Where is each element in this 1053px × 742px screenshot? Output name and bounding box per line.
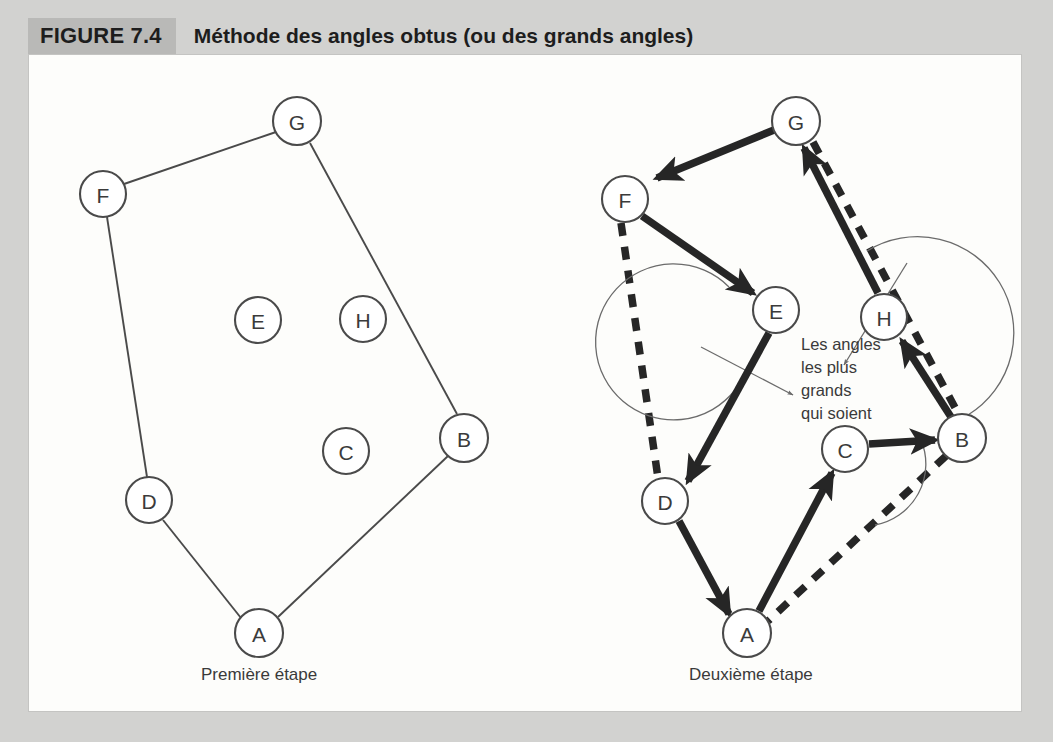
right-thick-arrows [642,130,951,614]
panel-deuxieme-etape: G F E H C [596,97,1014,657]
arrow-g-f [657,130,774,178]
arrow-f-e [642,216,753,293]
node-h-right: H [861,294,907,340]
edge-f-g [124,132,276,184]
annotation-line-4: qui soient [801,404,872,422]
node-c-left: C [323,428,369,474]
node-e-right: E [753,287,799,333]
arrow-h-g [804,148,878,293]
node-label-b: B [955,428,969,451]
node-label-d: D [141,490,156,513]
node-c-right: C [822,426,868,472]
figure-page: FIGURE 7.4 Méthode des angles obtus (ou … [0,0,1053,742]
node-label-c: C [338,441,353,464]
figure-title: Méthode des angles obtus (ou des grands … [176,18,693,54]
node-label-b: B [457,428,471,451]
node-label-c: C [837,439,852,462]
arrow-c-b [869,440,935,444]
node-a-right: A [723,609,771,657]
arrow-a-c [759,473,832,611]
figure-number-tag: FIGURE 7.4 [28,18,176,54]
figure-header: FIGURE 7.4 Méthode des angles obtus (ou … [28,18,1028,54]
node-label-g: G [289,111,305,134]
node-label-e: E [769,300,783,323]
node-e-left: E [235,297,281,343]
left-nodes: G F E H C [80,97,488,657]
node-f-left: F [80,171,126,217]
annotation-line-3: grands [801,381,851,399]
angle-annotation: Les angles les plus grands qui soient [801,335,881,422]
node-label-f: F [619,189,632,212]
node-label-h: H [355,309,370,332]
caption-premiere-etape: Première étape [201,665,317,685]
node-label-a: A [252,623,266,646]
caption-deuxieme-etape: Deuxième étape [689,665,813,685]
node-b-left: B [440,414,488,462]
edge-g-b [310,143,457,414]
diagram-svg: G F E H C [29,55,1023,713]
angle-arc-e [596,264,735,420]
left-edges [107,132,457,618]
node-label-h: H [876,307,891,330]
annotation-line-2: les plus [801,358,857,376]
node-label-e: E [251,310,265,333]
annotation-line-1: Les angles [801,335,881,353]
edge-d-f [107,217,147,477]
node-d-right: D [642,478,688,524]
node-a-left: A [235,609,283,657]
dashed-edge-f-d [621,223,658,478]
edge-b-a [278,456,448,617]
edge-a-d [163,520,241,618]
node-label-d: D [657,491,672,514]
node-d-left: D [126,477,172,523]
arrow-e-d [688,333,769,481]
node-label-f: F [97,184,110,207]
arrow-d-a [679,521,729,614]
node-g-left: G [273,97,321,145]
node-label-g: G [788,111,804,134]
node-b-right: B [938,414,986,462]
node-h-left: H [340,296,386,342]
node-f-right: F [602,176,648,222]
node-g-right: G [772,97,820,145]
node-label-a: A [740,623,754,646]
panel-premiere-etape: G F E H C [80,97,488,657]
figure-canvas: G F E H C [28,54,1022,712]
